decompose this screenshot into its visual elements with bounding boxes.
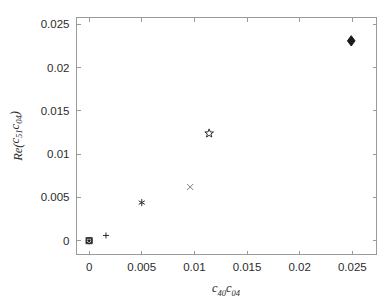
y-tick-label: 0.015 (41, 105, 70, 117)
x-tick-label: 0.025 (338, 261, 367, 273)
y-tick-label: 0.005 (41, 191, 70, 203)
scatter-plot: 00.0050.010.0150.020.025 00.0050.010.015… (0, 0, 391, 304)
figure-canvas: 00.0050.010.0150.020.025 00.0050.010.015… (0, 0, 391, 304)
x-tick-label: 0.01 (183, 261, 205, 273)
x-tick-label: 0.005 (127, 261, 156, 273)
data-point-point (88, 240, 90, 242)
x-tick-label: 0 (86, 261, 92, 273)
x-tick-label: 0.02 (288, 261, 310, 273)
y-tick-label: 0 (63, 235, 69, 247)
y-tick-label: 0.025 (41, 18, 70, 30)
y-tick-label: 0.02 (47, 62, 69, 74)
y-tick-label: 0.01 (47, 148, 69, 160)
x-tick-label: 0.015 (233, 261, 262, 273)
